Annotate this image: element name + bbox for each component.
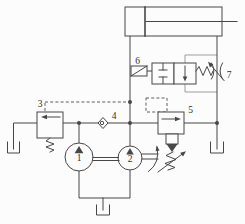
label-pump-2: 2 xyxy=(128,154,133,164)
label-valve-3: 3 xyxy=(38,99,43,109)
pressure-valve-5 xyxy=(158,112,186,172)
poppet-icon xyxy=(167,144,178,152)
pilot-dashed-line-3 xyxy=(45,102,130,111)
rotation-arrowhead-icon xyxy=(156,146,160,152)
adjust-arrow-icon xyxy=(180,151,186,156)
valve-stem xyxy=(166,134,178,144)
label-valve-5: 5 xyxy=(188,105,193,115)
spring-icon xyxy=(165,152,176,170)
pilot-dashed-box-5 xyxy=(146,98,167,112)
label-valve-4: 4 xyxy=(112,111,117,121)
spring-icon xyxy=(46,138,54,152)
cylinder xyxy=(125,7,237,36)
relief-valve-3 xyxy=(37,112,63,152)
hydraulic-circuit-diagram: 1 2 3 4 5 6 7 xyxy=(0,0,245,224)
label-pump-1: 1 xyxy=(77,153,82,163)
label-valve-6: 6 xyxy=(135,56,140,66)
check-valve-4 xyxy=(98,118,108,129)
directional-valve-6 xyxy=(131,63,213,84)
throttle-valve-7 xyxy=(208,62,224,81)
return-spring-icon xyxy=(196,67,213,76)
schematic-canvas: 1 2 3 4 5 6 7 xyxy=(0,0,245,224)
check-ball-icon xyxy=(100,121,103,124)
label-valve-7: 7 xyxy=(227,70,232,80)
